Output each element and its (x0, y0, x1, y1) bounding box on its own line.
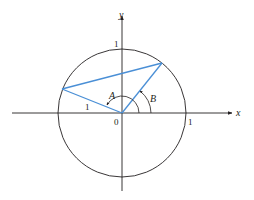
x-tick-label: 1 (188, 117, 193, 127)
radius-angle-b (122, 63, 162, 113)
x-axis-label: x (235, 107, 241, 118)
radius-length-label: 1 (85, 102, 90, 112)
y-axis-label: y (118, 9, 124, 20)
angle-b-label: B (150, 93, 156, 104)
angle-a-label: A (108, 90, 116, 101)
unit-circle-diagram: y x 1 1 0 A B 1 (0, 0, 254, 200)
origin-label: 0 (114, 117, 119, 127)
y-tick-label: 1 (114, 39, 119, 49)
